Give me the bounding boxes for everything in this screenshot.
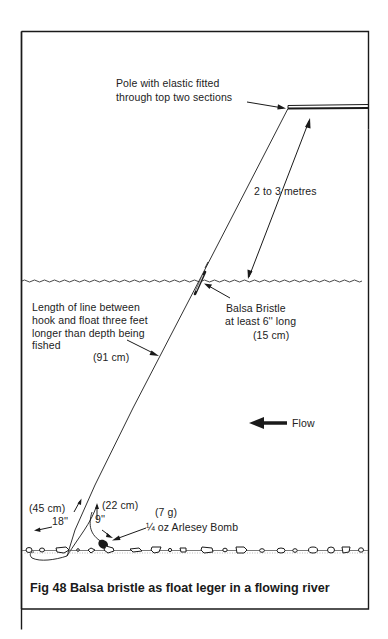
river-bed [22, 546, 368, 553]
pole-pointer-arrow [247, 102, 286, 110]
hooklength-metric: (45 cm) [29, 502, 65, 515]
figure-border-lower [22, 130, 369, 610]
bomb-label: ¼ oz Arlesey Bomb [146, 521, 238, 534]
bomb-weight-metric: (7 g) [155, 506, 177, 519]
bomb-pointer-arrow [112, 528, 146, 541]
float-label-line1: Balsa Bristle [226, 302, 286, 315]
line-length-pointer-arrow [127, 340, 159, 356]
float-label-line2: at least 6'' long [225, 315, 296, 328]
pole-label-line1: Pole with elastic fitted [116, 77, 219, 90]
bomb-link-metric: (22 cm) [102, 499, 138, 512]
bomb-link-arrow-down [102, 530, 113, 538]
line-length-label-4: fished [32, 339, 61, 352]
bomb-link-label: 9'' [95, 513, 105, 526]
distance-arrow [248, 118, 311, 279]
line-length-metric: (91 cm) [93, 351, 129, 364]
pole-label-line2: through top two sections [116, 91, 232, 104]
flow-arrow [249, 417, 287, 429]
figure-caption: Fig 48 Balsa bristle as float leger in a… [30, 581, 330, 595]
flow-label: Flow [292, 417, 315, 430]
line-length-label-2: hook and float three feet [32, 314, 148, 327]
water-surface [22, 280, 362, 282]
hooklength-arrow-left [34, 527, 52, 532]
hooklength-label: 18'' [52, 515, 68, 528]
hooklength-arrow-up [74, 499, 82, 513]
line-length-label-3: longer than depth being [32, 327, 145, 340]
line-length-label-1: Length of line between [32, 301, 140, 314]
pole [288, 105, 368, 109]
distance-label: 2 to 3 metres [254, 185, 317, 198]
float-label-metric: (15 cm) [253, 329, 289, 342]
balsa-bristle-float [195, 262, 208, 294]
float-pointer-arrow [204, 284, 230, 299]
